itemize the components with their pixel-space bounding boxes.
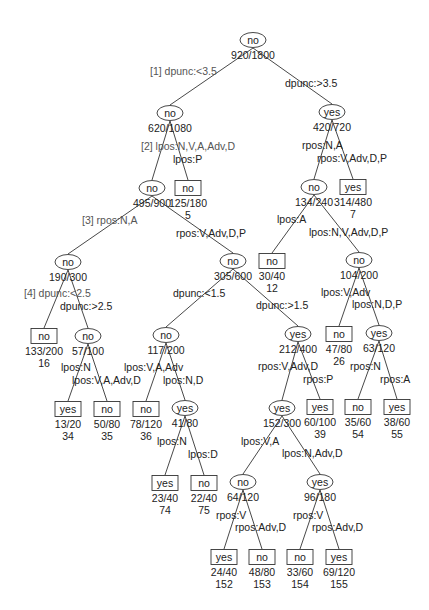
node-counts: 314/480 <box>334 196 372 208</box>
node-class-label: no <box>227 255 239 267</box>
edge-labels-layer: [1] dpunc:<3.5dpunc:>3.5[2] lpos:N,V,A,A… <box>24 65 410 533</box>
split-node: no305/600 <box>214 254 252 283</box>
leaf-node: no125/1805 <box>169 181 207 222</box>
edge-condition-label: lpos:N <box>157 435 187 447</box>
decision-tree: [1] dpunc:<3.5dpunc:>3.5[2] lpos:N,V,A,A… <box>0 0 429 610</box>
leaf-id: 26 <box>333 355 345 367</box>
leaf-node: no35/6054 <box>345 400 371 441</box>
node-counts: 190/300 <box>49 271 87 283</box>
edge-condition-label: dpunc:>1.5 <box>256 299 308 311</box>
node-class-label: no <box>333 328 345 340</box>
node-class-label: no <box>164 107 176 119</box>
node-class-label: yes <box>274 402 290 414</box>
edge-condition-label: lpos:V,A,Adv,D <box>72 374 141 386</box>
node-class-label: no <box>352 401 364 413</box>
leaf-node: yes24/40152 <box>211 550 237 591</box>
node-counts: 23/40 <box>152 492 178 504</box>
node-counts: 38/60 <box>384 416 410 428</box>
node-counts: 64/120 <box>227 491 259 503</box>
node-class-label: yes <box>177 402 193 414</box>
node-class-label: no <box>140 403 152 415</box>
edge-condition-label: rpos:N,A <box>302 139 343 151</box>
edge-condition-label: rpos:V,Adv,D <box>258 360 319 372</box>
split-node: no104/200 <box>340 253 378 282</box>
node-class-label: yes <box>312 476 328 488</box>
node-counts: 60/100 <box>304 416 336 428</box>
edge-condition-label: rpos:N <box>350 360 381 372</box>
edge-condition-label: rpos:V <box>216 509 246 521</box>
split-node: yes152/300 <box>263 401 301 430</box>
edge-condition-label: dpunc:>2.5 <box>60 300 112 312</box>
leaf-node: no133/20016 <box>25 329 63 370</box>
node-counts: 96/180 <box>304 491 336 503</box>
leaf-node: no30/4012 <box>259 254 285 295</box>
node-counts: 152/300 <box>263 417 301 429</box>
edge-condition-label: lpos:N,D,P <box>352 298 402 310</box>
edge-condition-label: dpunc:<1.5 <box>173 287 225 299</box>
leaf-node: yes60/10039 <box>304 400 336 441</box>
node-class-label: yes <box>389 401 405 413</box>
node-class-label: no <box>237 476 249 488</box>
node-counts: 24/40 <box>211 566 237 578</box>
node-counts: 305/600 <box>214 270 252 282</box>
edge-condition-label: lpos:N,D <box>163 374 204 386</box>
leaf-node: no22/4075 <box>191 476 217 517</box>
node-counts: 41/80 <box>172 417 198 429</box>
edge-condition-label: lpos:V,Adv <box>321 286 371 298</box>
node-counts: 47/80 <box>326 343 352 355</box>
node-counts: 69/120 <box>323 566 355 578</box>
split-node: no57/100 <box>72 329 104 358</box>
edge-condition-label: lpos:V,A <box>241 435 279 447</box>
split-node: yes96/180 <box>304 475 336 504</box>
node-class-label: no <box>182 182 194 194</box>
leaf-node: yes23/4074 <box>152 476 178 517</box>
leaf-node: no50/8035 <box>94 402 120 443</box>
leaf-node: yes13/2034 <box>55 402 81 443</box>
leaf-id: 16 <box>38 357 50 369</box>
leaf-node: yes38/6055 <box>384 400 410 441</box>
edge-condition-label: lpos:N <box>61 361 91 373</box>
node-counts: 920/1800 <box>231 49 275 61</box>
leaf-id: 55 <box>391 428 403 440</box>
leaf-node: yes69/120155 <box>323 550 355 591</box>
leaf-id: 154 <box>291 578 309 590</box>
edge-condition-label: lpos:V,A,Adv <box>124 361 184 373</box>
leaf-node: no48/80153 <box>249 550 275 591</box>
node-counts: 420/720 <box>313 121 351 133</box>
split-node: no190/300 <box>49 255 87 284</box>
leaf-id: 153 <box>253 578 271 590</box>
leaf-id: 75 <box>198 504 210 516</box>
leaf-id: 54 <box>352 428 364 440</box>
edge-condition-label: rpos:P <box>303 373 333 385</box>
edge-condition-label: lpos:A <box>277 213 306 225</box>
node-counts: 13/20 <box>55 418 81 430</box>
node-counts: 495/900 <box>133 197 171 209</box>
edge-condition-label: rpos:V,Adv,D,P <box>176 227 246 239</box>
edge-condition-label: rpos:Adv,D <box>235 521 287 533</box>
edge-condition-label: rpos:V,Adv,D,P <box>317 152 387 164</box>
node-class-label: no <box>198 477 210 489</box>
node-class-label: no <box>160 329 172 341</box>
leaf-id: 34 <box>62 430 74 442</box>
node-class-label: no <box>82 330 94 342</box>
leaf-id: 12 <box>266 282 278 294</box>
node-class-label: yes <box>331 551 347 563</box>
edge-condition-label: [1] dpunc:<3.5 <box>150 65 217 77</box>
node-class-label: no <box>62 256 74 268</box>
edge-condition-label: lpos:D <box>188 448 218 460</box>
leaf-node: yes314/4807 <box>334 180 372 221</box>
leaf-node: no47/8026 <box>326 327 352 368</box>
split-node: no64/120 <box>227 475 259 504</box>
node-class-label: no <box>256 551 268 563</box>
node-counts: 33/60 <box>287 566 313 578</box>
node-counts: 104/200 <box>340 269 378 281</box>
leaf-id: 39 <box>314 428 326 440</box>
node-counts: 57/100 <box>72 345 104 357</box>
node-counts: 212/400 <box>279 343 317 355</box>
node-counts: 48/80 <box>249 566 275 578</box>
node-class-label: no <box>146 182 158 194</box>
split-node: no920/1800 <box>231 33 275 62</box>
leaf-id: 36 <box>140 430 152 442</box>
node-counts: 117/200 <box>147 344 184 356</box>
node-class-label: no <box>101 403 113 415</box>
